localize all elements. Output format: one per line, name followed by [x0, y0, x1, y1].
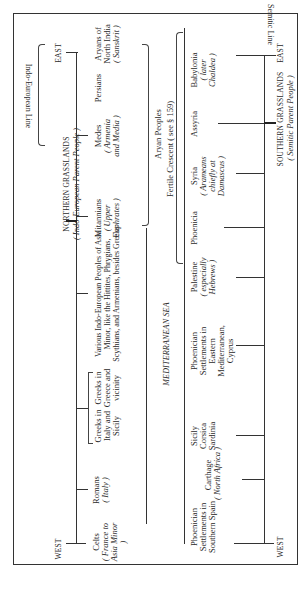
northern-bottom-rule: [146, 228, 147, 524]
indo-european-line-label: Indo-European Line: [24, 48, 33, 144]
drop-asia-minor: [76, 293, 88, 294]
drop-phoenicia: [224, 227, 264, 228]
northern-east-label: EAST: [54, 38, 63, 68]
drop-aryans: [66, 52, 78, 53]
drop-greeks: [76, 408, 88, 409]
people-greeks-greece: Greeks in Greece and vicinity: [94, 368, 121, 408]
drop-babylonia: [236, 55, 276, 56]
southern-tree-line: [264, 56, 265, 544]
drop-mitannians: [76, 216, 88, 217]
drop-palestine: [236, 277, 264, 278]
people-greeks-italy: Greeks in Italy and Sicily: [94, 408, 121, 444]
drop-carthage: [242, 479, 264, 480]
people-phoenicia: Phoenicia: [190, 206, 199, 250]
diagram-frame: NORTHERN GRASSLANDS ( Indo-European Pare…: [13, 13, 298, 565]
people-babylonia: Babylonia( later Chaldea ): [190, 44, 217, 96]
mediterranean-sea-label: MEDITERRANEAN SEA: [162, 274, 171, 414]
people-syria: Syria( Arameans chiefly at Damascus ): [190, 148, 226, 204]
northern-root-stem: [66, 220, 77, 222]
people-aryans: Aryans of North India( Sanskrit ): [94, 18, 121, 70]
drop-syria: [236, 173, 264, 174]
drop-phoenician-spain: [234, 543, 274, 544]
people-palestine: Palestine( especially Hebrews ): [190, 252, 217, 302]
northern-west-label: WEST: [54, 534, 63, 564]
people-assyria: Assyria: [190, 104, 199, 144]
semitic-line-label: Semitic Line: [266, 0, 275, 55]
southern-title: SOUTHERN GRASSLANDS: [276, 54, 285, 184]
fertile-crescent-brace: [176, 32, 183, 264]
people-medes: Medes( Armenia and Media ): [94, 108, 121, 164]
drop-medes: [76, 135, 88, 136]
people-carthage: Carthage( North Africa ): [204, 450, 222, 500]
aryan-peoples-label: Aryan Peoples: [154, 84, 163, 184]
drop-phoenician-east: [236, 345, 264, 346]
people-persians: Persians: [94, 70, 103, 106]
people-romans: Romans( Italy ): [92, 468, 110, 512]
aryan-brace: [142, 44, 149, 226]
drop-assyria: [218, 123, 264, 124]
southern-west-label: WEST: [276, 532, 285, 562]
people-celts: Celts( France to Asia Minor ): [92, 522, 128, 562]
fertile-crescent-label: Fertile Crescent ( see § 159): [166, 74, 175, 224]
northern-title: NORTHERN GRASSLANDS: [62, 104, 71, 264]
drop-sicily: [236, 435, 264, 436]
southern-root-stem: [264, 122, 276, 124]
people-phoenician-east: Phoenician Settlements in Eastern Medite…: [190, 316, 235, 386]
people-sicily-corsica-sardinia: Sicily Corsica Sardinia: [190, 416, 217, 456]
people-phoenician-spain: Phoenician Settlements in Southern Spain: [190, 498, 217, 556]
southern-subtitle: ( Semitic Parent People ): [286, 48, 295, 188]
northern-tree-line: [76, 53, 77, 544]
indo-european-brace: [38, 44, 45, 146]
drop-celts: [66, 543, 86, 544]
people-mitannians: Mitannians( Upper Euphrates ): [94, 190, 121, 246]
southern-top-rule: [184, 28, 185, 544]
diagram-canvas: NORTHERN GRASSLANDS ( Indo-European Pare…: [13, 13, 298, 565]
drop-romans: [76, 489, 88, 490]
